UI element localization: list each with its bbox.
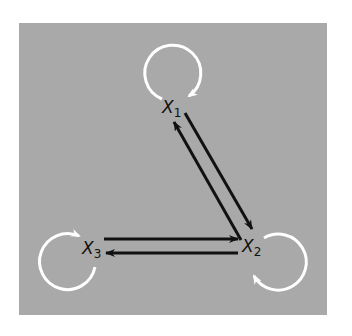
self-loop-x1	[145, 45, 201, 99]
edge-x2-to-x1	[174, 122, 241, 240]
self-loop-x2	[254, 234, 306, 290]
edge-x1-to-x2	[185, 113, 252, 229]
node-x1-label: X1	[161, 97, 181, 120]
node-x2-label: X2	[241, 236, 261, 259]
node-x3-label: X3	[81, 238, 101, 261]
state-transition-diagram: X1 X2 X3	[0, 0, 352, 336]
